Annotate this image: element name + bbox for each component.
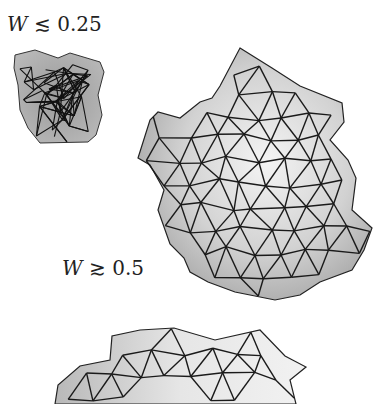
smooth-surface bbox=[138, 48, 372, 300]
crumpled-surface bbox=[14, 50, 104, 143]
figure-canvas bbox=[0, 0, 378, 404]
bottom-surface bbox=[55, 328, 306, 404]
